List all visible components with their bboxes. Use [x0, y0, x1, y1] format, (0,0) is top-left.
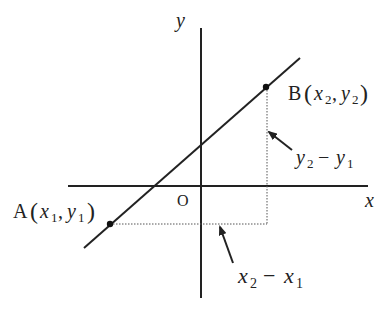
- svg-text:(: (: [30, 198, 38, 224]
- svg-text:1: 1: [347, 156, 354, 171]
- point-b-label: B ( x 2 , y 2 ): [288, 80, 368, 107]
- svg-text:x: x: [237, 263, 248, 288]
- run-label: x 2 − x 1: [237, 263, 303, 291]
- svg-text:,: ,: [58, 200, 63, 222]
- svg-text:x: x: [313, 82, 323, 104]
- svg-text:x: x: [283, 263, 294, 288]
- rise-label: y 2 − y 1: [294, 146, 354, 171]
- svg-text:1: 1: [296, 276, 303, 291]
- svg-text:2: 2: [352, 92, 359, 107]
- svg-text:y: y: [65, 200, 76, 223]
- svg-text:): ): [360, 80, 368, 106]
- svg-text:2: 2: [250, 276, 257, 291]
- svg-text:y: y: [339, 82, 350, 105]
- svg-text:x: x: [39, 200, 49, 222]
- point-b: [263, 84, 269, 90]
- svg-text:A: A: [13, 200, 28, 222]
- svg-text:B: B: [288, 82, 301, 104]
- svg-text:2: 2: [325, 92, 332, 107]
- point-a-label: A ( x 1 , y 1 ): [13, 198, 95, 225]
- svg-text:2: 2: [307, 156, 314, 171]
- svg-text:,: ,: [332, 82, 337, 104]
- y-axis-label: y: [174, 9, 185, 32]
- svg-text:1: 1: [78, 210, 85, 225]
- svg-text:): ): [87, 198, 95, 224]
- rise-arrow-icon: [269, 132, 292, 150]
- coordinate-diagram: y x O A ( x 1 , y 1 ) B ( x 2 , y 2 ) y …: [0, 0, 388, 328]
- svg-text:(: (: [304, 80, 312, 106]
- origin-label: O: [177, 192, 189, 209]
- point-a: [107, 221, 113, 227]
- x-axis-label: x: [364, 189, 374, 211]
- svg-text:−: −: [263, 263, 275, 288]
- svg-text:y: y: [294, 146, 305, 169]
- svg-text:−: −: [318, 146, 329, 168]
- svg-text:1: 1: [51, 210, 58, 225]
- run-arrow-icon: [220, 227, 233, 263]
- svg-text:y: y: [334, 146, 345, 169]
